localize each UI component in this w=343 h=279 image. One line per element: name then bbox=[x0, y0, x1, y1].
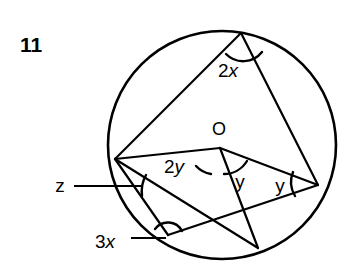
angle-arc-z bbox=[142, 175, 146, 196]
angle-arc-3x bbox=[155, 223, 182, 231]
geometry-figure: 11 O 2x bbox=[0, 0, 343, 279]
angle-label-2y-variable: y bbox=[173, 156, 186, 177]
chord-center-to-bottomright bbox=[220, 148, 258, 248]
angle-label-z: z bbox=[55, 175, 65, 196]
angle-label-3x-variable: x bbox=[105, 231, 117, 252]
chord-top-to-left bbox=[115, 33, 241, 159]
angle-label-2x-prefix: 2 bbox=[218, 60, 229, 81]
angle-arc-2y bbox=[196, 166, 211, 174]
angle-label-3x: 3x bbox=[95, 231, 117, 252]
angle-label-2x: 2x bbox=[218, 60, 240, 81]
chord-group bbox=[115, 33, 318, 248]
angle-label-3x-prefix: 3 bbox=[95, 231, 106, 252]
angle-label-y-center: y bbox=[235, 171, 245, 192]
chord-bottomleft-to-right bbox=[168, 185, 318, 235]
point-label-o: O bbox=[212, 119, 226, 139]
angle-label-2y-prefix: 2 bbox=[164, 156, 175, 177]
item-number: 11 bbox=[20, 33, 43, 56]
circle-geometry-diagram: 11 O 2x bbox=[0, 0, 343, 279]
angle-label-2y: 2y bbox=[164, 156, 186, 177]
chord-top-to-right bbox=[241, 33, 318, 185]
angle-label-y-right: y bbox=[275, 175, 285, 196]
angle-label-2x-variable: x bbox=[228, 60, 240, 81]
